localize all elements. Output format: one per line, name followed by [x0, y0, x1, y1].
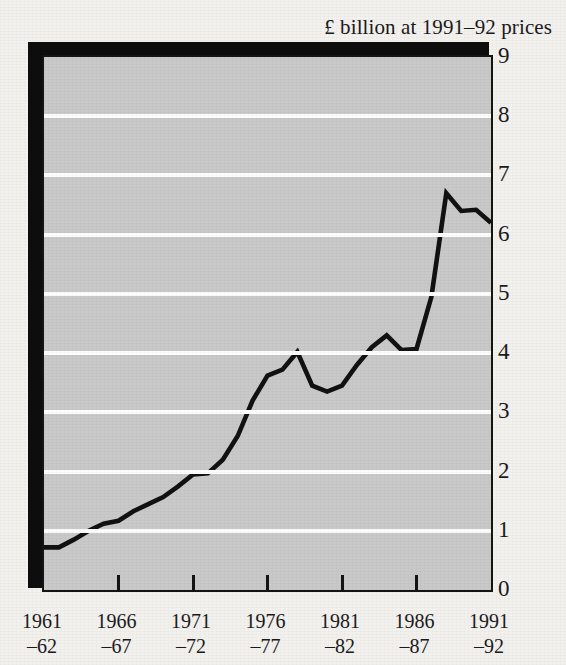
y-tick-label-2: 2	[498, 458, 510, 481]
x-tick-year-end: –87	[395, 634, 435, 659]
series-polyline	[44, 193, 491, 547]
x-tick-year-start: 1986	[395, 610, 435, 632]
x-tickmark-1976	[266, 575, 269, 590]
x-tick-year-end: –92	[469, 634, 509, 659]
y-tick-label-1: 1	[498, 517, 510, 540]
x-tick-year-start: 1961	[22, 610, 62, 632]
x-tick-year-end: –62	[22, 634, 62, 659]
x-tick-year-end: –77	[246, 634, 286, 659]
x-tickmark-1986	[415, 575, 418, 590]
x-tick-year-end: –67	[97, 634, 137, 659]
y-tick-label-3: 3	[498, 399, 510, 422]
gridline-8	[44, 114, 491, 118]
gridline-6	[44, 233, 491, 237]
y-tick-label-8: 8	[498, 103, 510, 126]
y-tick-label-9: 9	[498, 44, 510, 67]
x-tickmark-1981	[341, 575, 344, 590]
y-tick-label-4: 4	[498, 340, 510, 363]
x-tickmark-1971	[192, 575, 195, 590]
x-tick-year-end: –72	[171, 634, 211, 659]
x-tick-year-start: 1991	[469, 610, 509, 632]
gridline-7	[44, 173, 491, 177]
x-tick-year-start: 1976	[246, 610, 286, 632]
y-tick-label-6: 6	[498, 221, 510, 244]
x-tick-label-1966: 1966–67	[97, 609, 137, 659]
x-tick-label-1961: 1961–62	[22, 609, 62, 659]
x-tick-year-end: –82	[320, 634, 360, 659]
chart-title: £ billion at 1991–92 prices	[0, 15, 552, 40]
x-tick-year-start: 1981	[320, 610, 360, 632]
plot-inner	[44, 57, 491, 590]
y-axis-labels: 0123456789	[498, 0, 558, 665]
y-tick-label-5: 5	[498, 280, 510, 303]
x-tick-label-1991: 1991–92	[469, 609, 509, 659]
y-tick-label-7: 7	[498, 162, 510, 185]
gridline-5	[44, 292, 491, 296]
x-tick-year-start: 1966	[97, 610, 137, 632]
x-tick-label-1976: 1976–77	[246, 609, 286, 659]
x-tickmark-1966	[117, 575, 120, 590]
x-tick-label-1986: 1986–87	[395, 609, 435, 659]
plot-area	[42, 55, 493, 592]
gridline-4	[44, 351, 491, 355]
gridline-3	[44, 410, 491, 414]
y-tick-label-0: 0	[498, 577, 510, 600]
x-tick-label-1971: 1971–72	[171, 609, 211, 659]
x-tick-year-start: 1971	[171, 610, 211, 632]
x-axis-labels: 1961–621966–671971–721976–771981–821986–…	[0, 609, 566, 665]
figure-container: £ billion at 1991–92 prices 0123456789 1…	[0, 0, 566, 665]
data-line-series	[44, 57, 491, 590]
gridline-2	[44, 470, 491, 474]
x-tick-label-1981: 1981–82	[320, 609, 360, 659]
gridline-1	[44, 529, 491, 533]
